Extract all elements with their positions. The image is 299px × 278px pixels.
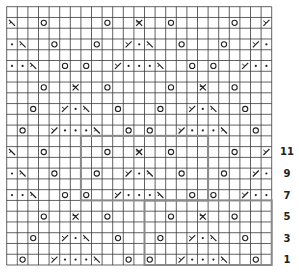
yarn-over-icon xyxy=(41,214,46,219)
ssk-icon xyxy=(9,149,15,155)
k2tog-tick xyxy=(242,64,245,66)
k2tog-stroke xyxy=(263,20,269,26)
k2tog-stroke xyxy=(263,149,269,155)
yarn-over-icon xyxy=(243,106,248,111)
yarn-over-icon xyxy=(221,171,226,176)
k2tog-tick xyxy=(263,21,266,23)
ssk-tick xyxy=(20,43,22,45)
ssk-tick xyxy=(10,22,12,24)
yarn-over-icon xyxy=(31,235,36,240)
purl-icon xyxy=(11,65,13,67)
k2tog-tick xyxy=(179,258,182,260)
yarn-over-icon xyxy=(232,149,237,154)
k2tog-icon xyxy=(189,106,195,112)
k2tog-icon xyxy=(115,192,121,198)
yarn-over-icon xyxy=(31,106,36,111)
k2tog-icon xyxy=(242,63,248,69)
ssk-tick xyxy=(84,108,86,110)
yarn-over-icon xyxy=(84,63,89,68)
ssk-tick xyxy=(158,194,160,196)
purl-icon xyxy=(75,237,77,239)
yarn-over-icon xyxy=(126,257,131,262)
k2tog-icon xyxy=(242,192,248,198)
k2tog-icon xyxy=(51,127,57,133)
ssk-icon xyxy=(83,106,89,112)
purl-icon xyxy=(128,65,130,67)
ssk-tick xyxy=(20,173,22,175)
k2tog-stroke xyxy=(242,63,248,69)
purl-icon xyxy=(22,194,24,196)
purl-icon xyxy=(191,259,193,261)
purl-icon xyxy=(212,129,214,131)
ssk-tick xyxy=(147,173,149,175)
yarn-over-icon xyxy=(221,42,226,47)
ssk-tick xyxy=(94,259,96,261)
yarn-over-icon xyxy=(243,235,248,240)
k2tog-stroke xyxy=(253,171,259,177)
k2tog-tick xyxy=(179,128,182,130)
yarn-over-icon xyxy=(179,42,184,47)
k2tog-tick xyxy=(189,236,192,238)
k2tog-icon xyxy=(253,171,259,177)
k2tog-stroke xyxy=(62,106,68,112)
k2tog-stroke xyxy=(126,41,132,47)
k2tog-stroke xyxy=(189,106,195,112)
sk2p-icon xyxy=(73,214,79,220)
ssk-tick xyxy=(211,108,213,110)
yarn-over-icon xyxy=(232,85,237,90)
yarn-over-icon xyxy=(126,128,131,133)
yarn-over-icon xyxy=(253,128,258,133)
row-label: 11 xyxy=(280,146,294,157)
ssk-tick xyxy=(211,237,213,239)
ssk-icon xyxy=(210,235,216,241)
purl-icon xyxy=(75,129,77,131)
k2tog-icon xyxy=(126,41,132,47)
sk2p-icon xyxy=(200,214,206,220)
k2tog-tick xyxy=(242,193,245,195)
ssk-icon xyxy=(83,235,89,241)
ssk-tick xyxy=(147,43,149,45)
k2tog-stroke xyxy=(115,63,121,69)
row-label: 1 xyxy=(284,254,291,265)
k2tog-stroke xyxy=(189,235,195,241)
yarn-over-icon xyxy=(190,63,195,68)
k2tog-tick xyxy=(126,172,129,174)
purl-icon xyxy=(265,43,267,45)
yarn-over-icon xyxy=(115,235,120,240)
purl-icon xyxy=(191,129,193,131)
ssk-tick xyxy=(222,129,224,131)
row-label: 5 xyxy=(284,211,291,222)
row-labels: 1357911 xyxy=(280,146,294,265)
ssk-icon xyxy=(9,20,15,26)
purl-icon xyxy=(202,129,204,131)
yarn-over-icon xyxy=(168,85,173,90)
k2tog-stroke xyxy=(253,41,259,47)
yarn-over-icon xyxy=(147,128,152,133)
k2tog-tick xyxy=(115,193,118,195)
ssk-tick xyxy=(158,65,160,67)
k2tog-stroke xyxy=(115,192,121,198)
yarn-over-icon xyxy=(62,192,67,197)
purl-icon xyxy=(265,172,267,174)
yarn-over-icon xyxy=(211,192,216,197)
purl-icon xyxy=(138,194,140,196)
k2tog-tick xyxy=(189,107,192,109)
k2tog-icon xyxy=(62,106,68,112)
ssk-tick xyxy=(222,259,224,261)
yarn-over-icon xyxy=(115,106,120,111)
ssk-tick xyxy=(10,151,12,153)
yarn-over-icon xyxy=(105,20,110,25)
yarn-over-icon xyxy=(168,149,173,154)
purl-icon xyxy=(138,172,140,174)
row-label: 9 xyxy=(284,168,291,179)
k2tog-stroke xyxy=(62,235,68,241)
k2tog-stroke xyxy=(126,171,132,177)
k2tog-icon xyxy=(263,149,269,155)
yarn-over-icon xyxy=(41,20,46,25)
ssk-icon xyxy=(20,171,26,177)
ssk-icon xyxy=(94,127,100,133)
yarn-over-icon xyxy=(158,106,163,111)
k2tog-tick xyxy=(62,107,65,109)
ssk-icon xyxy=(157,192,163,198)
k2tog-tick xyxy=(62,236,65,238)
